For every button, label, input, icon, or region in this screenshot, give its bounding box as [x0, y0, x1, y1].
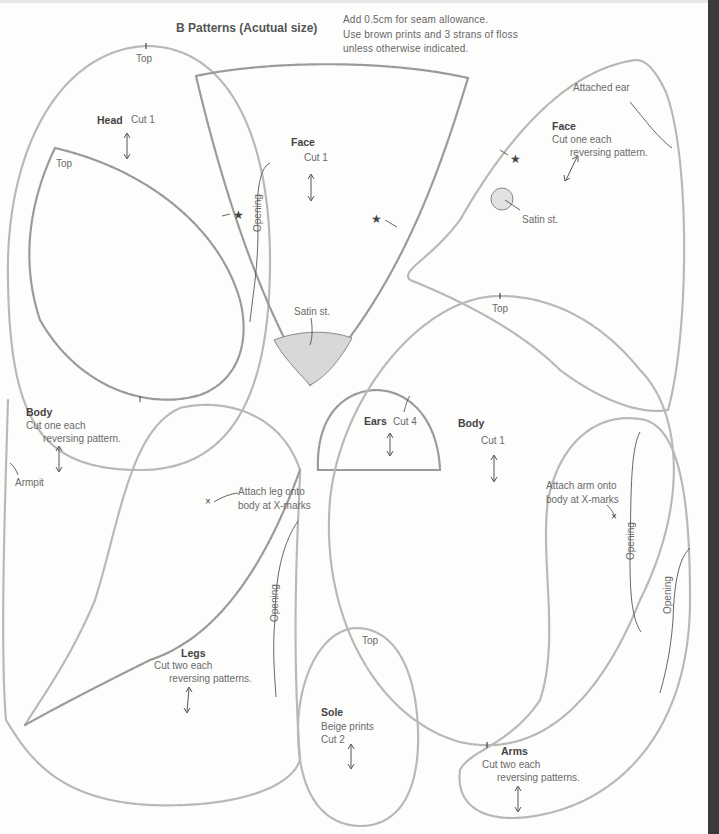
leader-star-face-left [222, 214, 230, 216]
leader-attach-leg [214, 493, 238, 502]
ears-title: Ears [364, 415, 387, 427]
arms-cut-1: Cut two each [482, 758, 540, 771]
head-side-outline [29, 148, 243, 400]
legs-cut-1: Cut two each [154, 659, 212, 672]
pattern-sheet: B Patterns (Acutual size) Add 0.5cm for … [0, 0, 719, 834]
face-side-cut-2: reversing pattern. [570, 146, 648, 159]
attach-leg-line-1: Attach leg onto [238, 485, 305, 498]
leader-star-face-right [385, 220, 397, 227]
body-center-cut: Cut 1 [481, 434, 505, 447]
head-cut: Cut 1 [131, 113, 155, 126]
satin-chin [274, 332, 352, 385]
face-side-cut-1: Cut one each [552, 133, 612, 146]
arms-title: Arms [501, 745, 528, 757]
face-opening-label: Opening [252, 194, 263, 232]
face-center-cut: Cut 1 [304, 151, 328, 164]
face-side-title: Face [552, 120, 576, 132]
sole-fabric: Beige prints [321, 720, 374, 733]
attach-arm-line-2: body at X-marks [546, 493, 619, 506]
grain-arrow-face-side [564, 156, 578, 181]
grain-arrow-legs [184, 687, 192, 713]
body-center-outline [329, 296, 674, 745]
leader-armpit [10, 463, 18, 475]
face-side-satin-label: Satin st. [522, 213, 558, 226]
note-line-1: Add 0.5cm for seam allowance. [343, 13, 518, 28]
attached-ear-label: Attached ear [573, 81, 630, 94]
head-top-label: Top [136, 52, 152, 65]
star-icon: ★ [510, 153, 521, 165]
instructions-note: Add 0.5cm for seam allowance. Use brown … [343, 13, 518, 57]
face-satin-label: Satin st. [294, 305, 330, 318]
ears-outline [318, 390, 440, 470]
face-center-title: Face [291, 136, 315, 148]
grain-arrow-head [124, 133, 130, 159]
sole-top-label: Top [362, 634, 378, 647]
arms-opening-label-2: Opening [662, 576, 673, 614]
star-icon: ★ [233, 209, 244, 221]
ears-cut: Cut 4 [393, 415, 417, 428]
star-icon: ★ [371, 213, 382, 225]
grain-arrow-arms [515, 786, 521, 812]
body-side-cut-1: Cut one each [26, 419, 86, 432]
legs-title: Legs [181, 647, 206, 659]
body-top-label: Top [492, 302, 508, 315]
head-title: Head [97, 114, 123, 126]
body-center-title: Body [458, 417, 484, 429]
legs-cut-2: reversing patterns. [169, 672, 252, 685]
arms-cut-2: reversing patterns. [497, 771, 580, 784]
sole-title: Sole [321, 706, 343, 718]
satin-eye [491, 188, 513, 210]
face-side-outline [408, 60, 684, 411]
legs-opening-label: Opening [269, 584, 280, 622]
x-mark-icon: × [611, 511, 617, 522]
x-mark-icon: × [205, 496, 211, 507]
body-side-outline [3, 400, 300, 805]
note-line-3: unless otherwise indicated. [343, 42, 518, 57]
page-title: B Patterns (Acutual size) [176, 21, 317, 35]
leader-attached-ear [630, 102, 672, 148]
note-line-2: Use brown prints and 3 strans of floss [343, 28, 518, 43]
grain-arrow-body-side [56, 446, 62, 472]
armpit-label: Armpit [15, 476, 44, 489]
leader-opening-arm2 [660, 548, 690, 693]
sole-cut: Cut 2 [321, 733, 345, 746]
grain-arrow-ears [387, 433, 393, 456]
attach-arm-line-1: Attach arm onto [546, 479, 617, 492]
grain-arrow-sole [348, 744, 354, 769]
head-side-top-label: Top [56, 157, 72, 170]
body-side-title: Body [26, 406, 52, 418]
body-side-cut-2: reversing pattern. [43, 432, 121, 445]
arms-opening-label-1: Opening [625, 522, 636, 560]
grain-arrow-face [308, 174, 314, 201]
attach-leg-line-2: body at X-marks [238, 499, 311, 512]
grain-arrow-body [491, 455, 497, 482]
